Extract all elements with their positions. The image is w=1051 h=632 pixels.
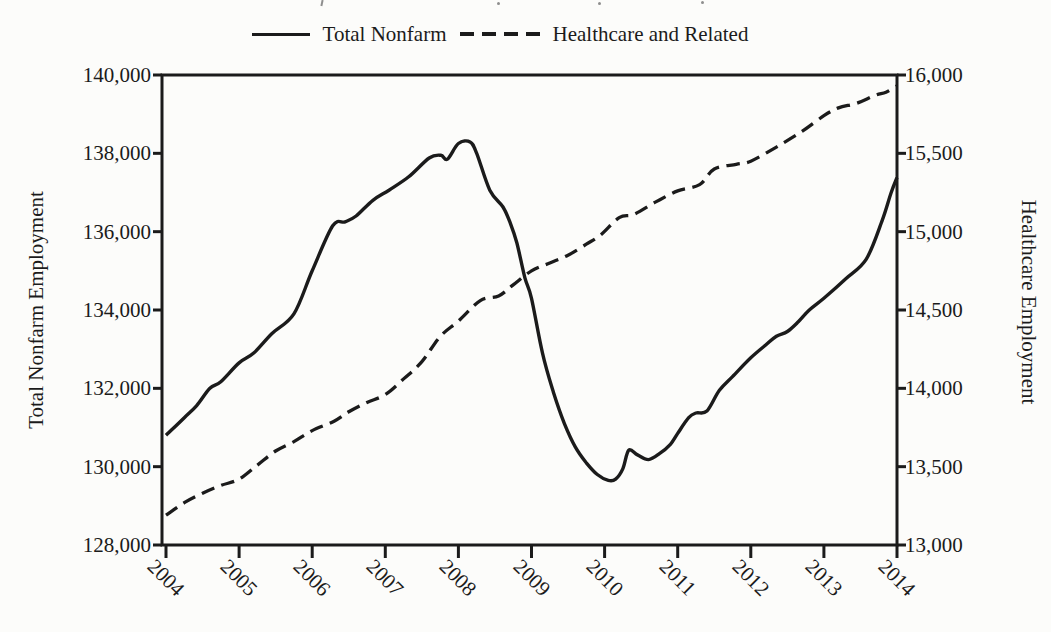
right-tick-label: 14,000 — [905, 375, 963, 401]
right-tick-label: 14,500 — [905, 297, 963, 323]
left-tick-label: 132,000 — [46, 375, 151, 401]
series-line-total-nonfarm — [166, 141, 897, 481]
left-tick-label: 140,000 — [46, 62, 151, 88]
left-tick-label: 138,000 — [46, 140, 151, 166]
left-tick-label: 136,000 — [46, 219, 151, 245]
plot-area — [0, 0, 1051, 632]
right-tick-label: 13,500 — [905, 454, 963, 480]
plot-frame — [162, 75, 897, 545]
left-tick-label: 134,000 — [46, 297, 151, 323]
left-tick-label: 130,000 — [46, 454, 151, 480]
right-tick-label: 15,000 — [905, 219, 963, 245]
right-tick-label: 15,500 — [905, 140, 963, 166]
left-tick-label: 128,000 — [46, 532, 151, 558]
employment-chart-figure: Total Nonfarm Healthcare and Related Tot… — [0, 0, 1051, 632]
right-tick-label: 13,000 — [905, 532, 963, 558]
right-tick-label: 16,000 — [905, 62, 963, 88]
